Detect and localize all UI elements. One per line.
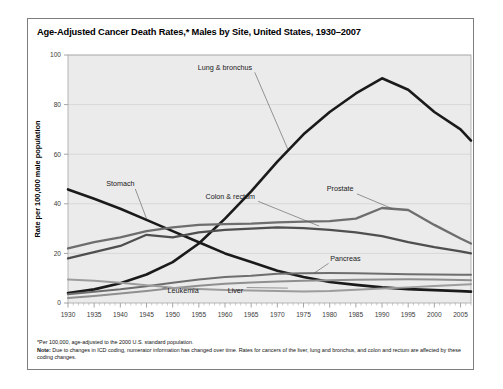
series-label-stomach: Stomach (106, 179, 134, 188)
figure-title: Age-Adjusted Cancer Death Rates,* Males … (37, 27, 465, 38)
figure-panel: Age-Adjusted Cancer Death Rates,* Males … (27, 18, 474, 370)
y-axis-title: Rate per 100,000 male population (33, 120, 42, 238)
ytick-label-40: 40 (54, 200, 62, 207)
series-label-prostate: Prostate (327, 184, 354, 193)
series-label-lung-bronchus: Lung & bronchus (198, 63, 253, 72)
xtick-label-1990: 1990 (375, 311, 390, 318)
xtick-label-1995: 1995 (401, 311, 416, 318)
series-label-liver: Liver (228, 286, 244, 295)
xtick-label-1945: 1945 (139, 311, 154, 318)
ytick-label-20: 20 (54, 250, 62, 257)
series-label-pancreas: Pancreas (330, 254, 361, 263)
footnotes-block: *Per 100,000, age-adjusted to the 2000 U… (37, 339, 465, 362)
ytick-label-60: 60 (54, 151, 62, 158)
footnote-note: Note: Due to changes in ICD coding, nume… (37, 347, 465, 362)
xtick-label-1975: 1975 (296, 311, 311, 318)
ytick-label-80: 80 (54, 101, 62, 108)
ytick-label-0: 0 (57, 299, 61, 306)
series-label-colon-rectum: Colon & rectum (205, 192, 255, 201)
xtick-label-2000: 2000 (427, 311, 442, 318)
xtick-label-1955: 1955 (192, 311, 207, 318)
xtick-label-1930: 1930 (61, 311, 76, 318)
xtick-label-1940: 1940 (113, 311, 128, 318)
series-label-leukemia: Leukemia (168, 286, 199, 295)
ytick-label-100: 100 (50, 51, 61, 58)
xtick-label-1985: 1985 (349, 311, 364, 318)
chart-area: 0204060801001930193519401945195019551960… (28, 45, 473, 330)
xtick-label-1935: 1935 (87, 311, 102, 318)
line-chart: 0204060801001930193519401945195019551960… (28, 45, 473, 330)
xtick-label-1960: 1960 (218, 311, 233, 318)
xtick-label-2005: 2005 (453, 311, 468, 318)
xtick-label-1965: 1965 (244, 311, 259, 318)
xtick-label-1950: 1950 (165, 311, 180, 318)
xtick-label-1980: 1980 (322, 311, 337, 318)
footnote-note-label: Note: (37, 347, 51, 353)
xtick-label-1970: 1970 (270, 311, 285, 318)
footnote-asterisk: *Per 100,000, age-adjusted to the 2000 U… (37, 339, 465, 347)
footnote-note-text: Due to changes in ICD coding, numerator … (37, 347, 461, 361)
